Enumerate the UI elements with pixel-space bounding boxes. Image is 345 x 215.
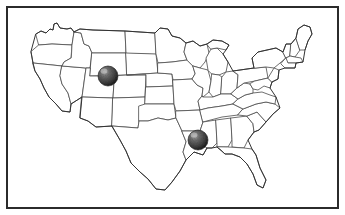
- screenshot-root: [0, 0, 345, 215]
- state-new-jersey: [268, 68, 279, 82]
- us-map-svg[interactable]: [0, 0, 345, 215]
- state-boundaries-layer: [31, 23, 312, 190]
- state-washington: [36, 23, 74, 45]
- marker-2-group[interactable]: [188, 130, 208, 150]
- state-south-dakota: [126, 53, 158, 75]
- state-texas: [112, 118, 186, 190]
- location-marker-south-icon[interactable]: [188, 130, 208, 150]
- state-north-dakota: [125, 31, 156, 54]
- state-indiana: [209, 74, 222, 97]
- us-map-canvas[interactable]: [0, 0, 345, 215]
- state-arizona: [80, 97, 113, 127]
- marker-1-group[interactable]: [98, 66, 118, 86]
- location-marker-west-icon[interactable]: [98, 66, 118, 86]
- location-marker-south-highlight: [191, 132, 198, 137]
- location-marker-west-highlight: [101, 68, 108, 73]
- state-alabama: [216, 118, 232, 147]
- state-kansas: [145, 86, 174, 104]
